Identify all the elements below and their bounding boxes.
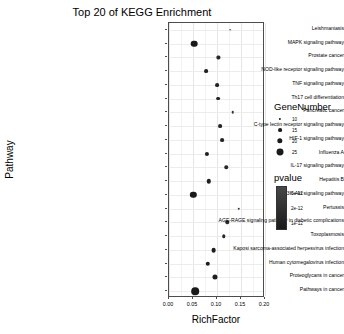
- x-axis-title: RichFactor: [168, 314, 264, 325]
- y-axis-tick-label: Hepatitis B: [178, 178, 344, 183]
- gridline-vertical: [265, 23, 266, 296]
- y-axis-tick-label: AGE-RAGE signaling pathway in diabetic c…: [178, 219, 344, 224]
- y-axis-tick-label: Pertussis: [178, 205, 344, 210]
- genenumber-legend-dot: [277, 138, 282, 143]
- genenumber-legend-item: 20: [280, 136, 330, 146]
- y-axis-tick-mark: [165, 208, 167, 209]
- y-axis-tick-label: Kaposi sarcoma-associated herpesvirus in…: [178, 246, 344, 251]
- gridline-vertical-minor: [205, 23, 206, 296]
- y-axis-tick-mark: [165, 29, 167, 30]
- gridline-vertical: [169, 23, 170, 296]
- y-axis-tick-mark: [165, 56, 167, 57]
- y-axis-tick-mark: [165, 111, 167, 112]
- genenumber-legend-dot: [279, 118, 281, 120]
- genenumber-legend-dot: [277, 149, 284, 156]
- y-axis-tick-mark: [165, 43, 167, 44]
- y-axis-tick-mark: [165, 70, 167, 71]
- pvalue-colorbar-tick-label: 1e-12: [291, 220, 303, 225]
- genenumber-legend-label: 15: [292, 128, 297, 133]
- y-axis-tick-label: TNF signaling pathway: [178, 81, 344, 86]
- x-axis-tick-mark: [168, 297, 169, 299]
- genenumber-legend-item: 25: [280, 147, 330, 157]
- y-axis-tick-mark: [165, 84, 167, 85]
- y-axis-tick-mark: [165, 221, 167, 222]
- genenumber-legend-item: 15: [280, 125, 330, 135]
- pvalue-colorbar-tick-label: 2e-12: [291, 206, 303, 211]
- x-axis-tick-label: 0.20: [249, 301, 279, 307]
- y-axis-tick-mark: [165, 180, 167, 181]
- y-axis-tick-mark: [165, 235, 167, 236]
- genenumber-legend-item: 10: [280, 114, 330, 124]
- y-axis-tick-label: Pathways in cancer: [178, 288, 344, 293]
- kegg-enrichment-dotplot: Top 20 of KEGG Enrichment LeishmaniasisM…: [0, 0, 344, 334]
- y-axis-tick-label: Leishmaniasis: [178, 26, 344, 31]
- genenumber-legend-label: 20: [292, 139, 297, 144]
- y-axis-title: Pathway: [4, 125, 15, 195]
- y-axis-tick-label: Prostate cancer: [178, 54, 344, 59]
- gridline-vertical-minor: [229, 23, 230, 296]
- chart-title: Top 20 of KEGG Enrichment: [0, 6, 284, 18]
- y-axis-tick-mark: [165, 263, 167, 264]
- y-axis-tick-label: MAPK signaling pathway: [178, 40, 344, 45]
- x-axis-tick-mark: [264, 297, 265, 299]
- y-axis-tick-mark: [165, 290, 167, 291]
- y-axis-tick-label: Human cytomegalovirus infection: [178, 260, 344, 265]
- plot-panel: [168, 22, 264, 297]
- x-axis-tick-mark: [192, 297, 193, 299]
- y-axis-tick-label: Proteoglycans in cancer: [178, 274, 344, 279]
- y-axis-tick-mark: [165, 98, 167, 99]
- y-axis-tick-mark: [165, 125, 167, 126]
- genenumber-legend-title: GeneNumber: [274, 101, 331, 112]
- genenumber-legend-label: 10: [292, 117, 297, 122]
- gridline-vertical: [241, 23, 242, 296]
- pvalue-colorbar-tick-label: 3e-12: [291, 191, 303, 196]
- y-axis-tick-label: IL-17 signaling pathway: [178, 164, 344, 169]
- genenumber-legend-label: 25: [292, 150, 297, 155]
- y-axis-tick-label: NOD-like receptor signaling pathway: [178, 68, 344, 73]
- y-axis-tick-mark: [165, 166, 167, 167]
- gridline-vertical: [193, 23, 194, 296]
- x-axis-tick-mark: [216, 297, 217, 299]
- pvalue-legend-title: pvalue: [274, 172, 302, 183]
- gridline-vertical-minor: [181, 23, 182, 296]
- pvalue-colorbar: [276, 186, 287, 230]
- genenumber-legend-dot: [278, 128, 282, 132]
- y-axis-tick-label: Th17 cell differentiation: [178, 95, 344, 100]
- gridline-vertical-minor: [253, 23, 254, 296]
- y-axis-tick-mark: [165, 276, 167, 277]
- y-axis-tick-label: Toxoplasmosis: [178, 233, 344, 238]
- x-axis-tick-mark: [240, 297, 241, 299]
- gridline-vertical: [217, 23, 218, 296]
- y-axis-tick-mark: [165, 194, 167, 195]
- y-axis-tick-mark: [165, 153, 167, 154]
- y-axis-tick-mark: [165, 139, 167, 140]
- y-axis-tick-label: PI3K-Akt signaling pathway: [178, 191, 344, 196]
- y-axis-tick-mark: [165, 249, 167, 250]
